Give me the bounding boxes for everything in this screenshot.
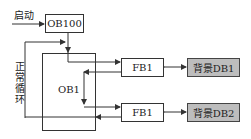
ob1-label: OB1 [58, 84, 80, 95]
ob100-label: OB100 [47, 18, 82, 29]
fb1-bottom-block: FB1 [121, 103, 164, 122]
cycle-label: 正常循环 [12, 61, 24, 108]
fb1-top-label: FB1 [132, 62, 153, 73]
ob100-block: OB100 [45, 14, 84, 33]
start-label: 启动 [14, 11, 34, 21]
db2-label: 背景DB2 [193, 105, 235, 120]
fb1-bottom-label: FB1 [132, 107, 153, 118]
db1-block: 背景DB1 [187, 58, 240, 77]
fb1-top-block: FB1 [121, 58, 164, 77]
db2-block: 背景DB2 [187, 103, 240, 122]
ob1-block: OB1 [42, 53, 96, 131]
db1-label: 背景DB1 [193, 60, 235, 75]
